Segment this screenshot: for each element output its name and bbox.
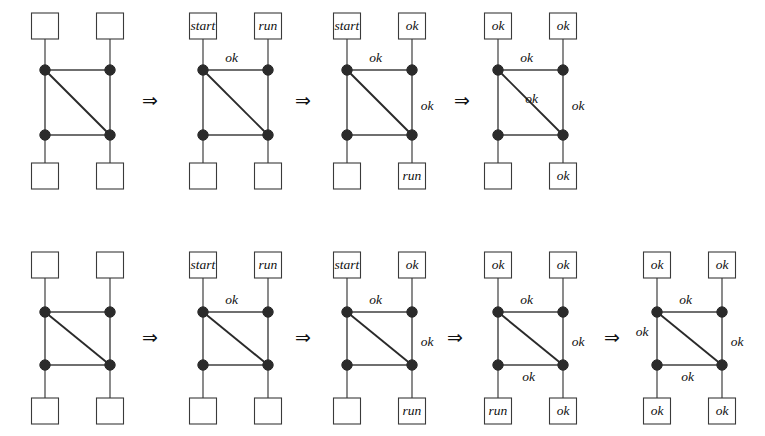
edge-diagonal[interactable]	[203, 312, 268, 365]
edge-diagonal[interactable]	[657, 312, 722, 365]
edge-label-top: ok	[225, 50, 239, 65]
bottom-left-box[interactable]	[190, 163, 217, 189]
rewrite-arrow-4: ⇒	[604, 326, 620, 348]
node-bottom-right[interactable]	[558, 360, 568, 370]
node-top-right[interactable]	[263, 65, 273, 75]
node-top-left[interactable]	[342, 65, 352, 75]
edge-label-right: ok	[572, 334, 586, 349]
rewrite-arrow-2: ⇒	[295, 89, 311, 111]
node-top-left[interactable]	[652, 307, 662, 317]
edge-label-top: ok	[520, 50, 534, 65]
top-left-label: ok	[492, 18, 506, 33]
edge-label-top: ok	[679, 292, 693, 307]
bottom-left-label: ok	[651, 403, 665, 418]
edge-label-right: ok	[421, 98, 435, 113]
node-bottom-right[interactable]	[263, 360, 273, 370]
node-bottom-left[interactable]	[342, 360, 352, 370]
bottom-left-box[interactable]	[32, 398, 59, 424]
node-top-left[interactable]	[40, 65, 50, 75]
bottom-right-box[interactable]	[97, 398, 124, 424]
edge-label-bottom: ok	[522, 369, 536, 384]
edge-label-top: ok	[369, 50, 383, 65]
node-bottom-left[interactable]	[40, 360, 50, 370]
edge-diagonal[interactable]	[347, 312, 412, 365]
node-bottom-right[interactable]	[263, 130, 273, 140]
node-bottom-left[interactable]	[493, 360, 503, 370]
edge-diagonal[interactable]	[498, 312, 563, 365]
node-top-left[interactable]	[198, 65, 208, 75]
arrow-group-row-2: ⇒	[447, 326, 463, 348]
arrow-group-row-2: ⇒	[142, 326, 158, 348]
figure-canvas: startrunokstartokrunokokokokokokokok⇒⇒⇒s…	[0, 0, 765, 436]
rewrite-arrow-3: ⇒	[454, 89, 470, 111]
node-top-right[interactable]	[105, 65, 115, 75]
edge-label-top: ok	[225, 292, 239, 307]
node-top-right[interactable]	[263, 307, 273, 317]
bottom-left-box[interactable]	[32, 163, 59, 189]
node-bottom-left[interactable]	[198, 130, 208, 140]
edge-label-bottom: ok	[681, 369, 695, 384]
bottom-left-box[interactable]	[334, 398, 361, 424]
panel-row-2-r2p3: startokrunokok	[334, 252, 435, 424]
graph-sequence-figure: startrunokstartokrunokokokokokokokok⇒⇒⇒s…	[0, 0, 765, 436]
edge-diagonal[interactable]	[347, 70, 412, 135]
bottom-left-box[interactable]	[334, 163, 361, 189]
arrow-group-row-1: ⇒	[454, 89, 470, 111]
arrow-group-row-1: ⇒	[142, 89, 158, 111]
edge-label-diagonal: ok	[525, 91, 539, 106]
node-top-left[interactable]	[493, 65, 503, 75]
node-bottom-right[interactable]	[558, 130, 568, 140]
bottom-right-box[interactable]	[255, 163, 282, 189]
node-top-right[interactable]	[558, 65, 568, 75]
node-bottom-left[interactable]	[342, 130, 352, 140]
node-bottom-left[interactable]	[493, 130, 503, 140]
node-top-left[interactable]	[198, 307, 208, 317]
top-left-label: start	[191, 257, 217, 272]
rewrite-arrow-2: ⇒	[295, 326, 311, 348]
node-bottom-right[interactable]	[407, 130, 417, 140]
node-top-right[interactable]	[105, 307, 115, 317]
bottom-left-box[interactable]	[190, 398, 217, 424]
edge-diagonal[interactable]	[45, 312, 110, 365]
bottom-right-box[interactable]	[97, 163, 124, 189]
top-left-label: start	[335, 18, 361, 33]
top-left-box[interactable]	[32, 13, 59, 39]
node-top-right[interactable]	[717, 307, 727, 317]
top-right-label: run	[259, 257, 278, 272]
node-bottom-right[interactable]	[717, 360, 727, 370]
node-bottom-right[interactable]	[105, 130, 115, 140]
panel-row-2-r2p1	[32, 252, 124, 424]
node-top-right[interactable]	[407, 307, 417, 317]
node-bottom-left[interactable]	[40, 130, 50, 140]
top-right-box[interactable]	[97, 252, 124, 278]
edge-diagonal[interactable]	[45, 70, 110, 135]
edge-diagonal[interactable]	[203, 70, 268, 135]
top-left-box[interactable]	[32, 252, 59, 278]
panel-row-1-r1p1	[32, 13, 124, 189]
node-bottom-right[interactable]	[105, 360, 115, 370]
node-top-left[interactable]	[342, 307, 352, 317]
node-top-left[interactable]	[493, 307, 503, 317]
arrow-group-row-2: ⇒	[604, 326, 620, 348]
top-left-label: start	[191, 18, 217, 33]
top-left-label: ok	[492, 257, 506, 272]
edge-label-top: ok	[369, 292, 383, 307]
bottom-right-box[interactable]	[255, 398, 282, 424]
top-right-label: ok	[716, 257, 730, 272]
arrow-group-row-1: ⇒	[295, 89, 311, 111]
panel-row-1-r1p2: startrunok	[190, 13, 282, 189]
panel-row-2-r2p2: startrunok	[190, 252, 282, 424]
top-right-box[interactable]	[97, 13, 124, 39]
node-top-right[interactable]	[558, 307, 568, 317]
edge-label-right: ok	[572, 98, 586, 113]
node-top-left[interactable]	[40, 307, 50, 317]
bottom-right-label: ok	[557, 403, 571, 418]
node-bottom-left[interactable]	[652, 360, 662, 370]
node-top-right[interactable]	[407, 65, 417, 75]
bottom-right-label: run	[403, 168, 422, 183]
node-bottom-left[interactable]	[198, 360, 208, 370]
node-bottom-right[interactable]	[407, 360, 417, 370]
bottom-right-label: ok	[716, 403, 730, 418]
top-left-label: start	[335, 257, 361, 272]
bottom-left-box[interactable]	[485, 163, 512, 189]
